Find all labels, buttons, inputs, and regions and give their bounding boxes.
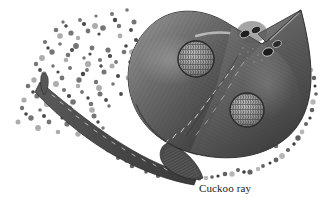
illustration-plate: Cuckoo ray <box>0 0 332 198</box>
ocellus-upper <box>178 41 214 77</box>
ocellus-lower <box>230 93 264 127</box>
cuckoo-ray-illustration <box>0 0 332 198</box>
figure-caption: Cuckoo ray <box>199 182 251 194</box>
